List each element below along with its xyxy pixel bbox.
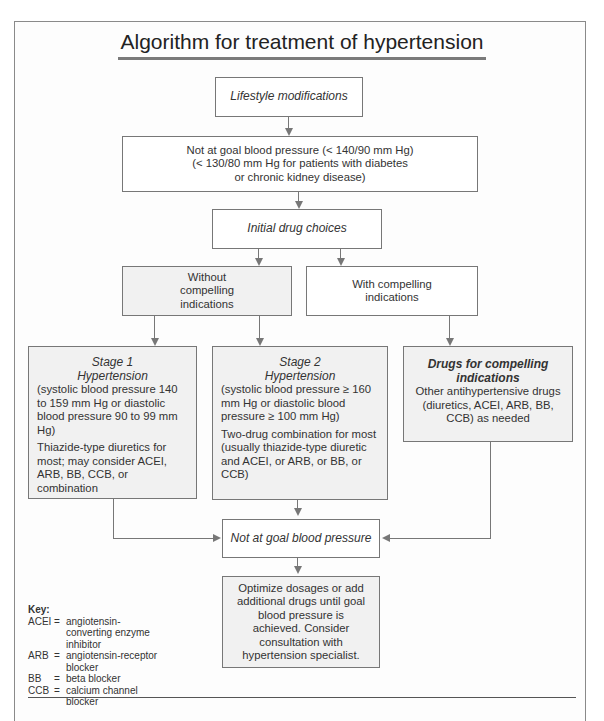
key-row: ACEI = angiotensin-converting enzyme inh…	[28, 616, 162, 651]
node-line: (< 130/80 mm Hg for patients with diabet…	[192, 157, 408, 171]
legend-key: Key: ACEI = angiotensin-converting enzym…	[28, 604, 162, 708]
connector	[113, 499, 114, 539]
connector	[297, 558, 298, 566]
arrow-down-icon	[255, 258, 263, 266]
key-title: Key:	[28, 604, 162, 616]
key-meaning: angiotensin-converting enzyme inhibitor	[66, 616, 162, 651]
node-initial-drug-choices: Initial drug choices	[212, 209, 382, 249]
stage-criteria: (systolic blood pressure ≥ 160 mm Hg or …	[213, 383, 387, 424]
node-lifestyle-modifications: Lifestyle modifications	[215, 77, 363, 117]
key-row: BB = beta blocker	[28, 673, 162, 685]
connector	[259, 316, 260, 338]
stage-heading: Stage 1	[29, 355, 196, 369]
key-abbr: BB	[28, 673, 54, 685]
node-stage-2-hypertension: Stage 2 Hypertension (systolic blood pre…	[212, 346, 388, 500]
arrow-down-icon	[151, 338, 159, 346]
arrow-down-icon	[285, 128, 293, 136]
arrow-left-icon	[382, 534, 390, 542]
arrow-down-icon	[294, 508, 302, 516]
stage-heading: Hypertension	[213, 369, 387, 383]
node-stage-1-hypertension: Stage 1 Hypertension (systolic blood pre…	[28, 346, 197, 499]
key-abbr: CCB	[28, 685, 54, 708]
connector	[113, 538, 213, 539]
node-drugs-for-compelling-indications: Drugs for compelling indications Other a…	[403, 346, 573, 442]
key-row: ARB = angiotensin-receptor blocker	[28, 650, 162, 673]
key-eq: =	[54, 616, 66, 651]
connector	[449, 316, 450, 338]
node-label: With compelling indications	[352, 278, 432, 305]
node-line: or chronic kidney disease)	[234, 171, 365, 185]
node-not-at-goal-bp-threshold: Not at goal blood pressure (< 140/90 mm …	[122, 136, 478, 192]
arrow-down-icon	[337, 258, 345, 266]
node-with-compelling-indications: With compelling indications	[306, 266, 478, 316]
stage-heading: Stage 2	[213, 355, 387, 369]
connector	[390, 538, 491, 539]
node-heading: Drugs for compelling indications	[414, 357, 562, 385]
key-meaning: angiotensin-receptor blocker	[66, 650, 162, 673]
title-text: Algorithm for treatment of hypertension	[118, 30, 485, 60]
arrow-down-icon	[256, 338, 264, 346]
key-table: ACEI = angiotensin-converting enzyme inh…	[28, 616, 162, 708]
node-label: Not at goal blood pressure	[231, 532, 372, 546]
node-label: Without compelling indications	[163, 271, 251, 312]
key-abbr: ACEI	[28, 616, 54, 651]
connector	[490, 442, 491, 539]
arrow-right-icon	[213, 534, 221, 542]
diagram-title: Algorithm for treatment of hypertension	[0, 30, 604, 60]
connector	[297, 500, 298, 508]
stage-heading: Hypertension	[29, 369, 196, 383]
bottom-rule	[28, 697, 576, 698]
node-label: Lifestyle modifications	[230, 90, 347, 104]
key-meaning: calcium channel blocker	[66, 685, 162, 708]
node-line: Not at goal blood pressure (< 140/90 mm …	[187, 144, 414, 158]
arrow-down-icon	[295, 201, 303, 209]
node-not-at-goal-bp: Not at goal blood pressure	[222, 519, 380, 558]
node-optimize-dosages: Optimize dosages or add additional drugs…	[222, 576, 380, 668]
connector	[154, 316, 155, 338]
node-body: Other antihypertensive drugs (diuretics,…	[414, 385, 562, 426]
key-abbr: ARB	[28, 650, 54, 673]
key-meaning: beta blocker	[66, 673, 162, 685]
key-eq: =	[54, 673, 66, 685]
node-without-compelling-indications: Without compelling indications	[122, 266, 292, 316]
stage-treatment: Two-drug combination for most (usually t…	[213, 428, 387, 482]
stage-treatment: Thiazide-type diuretics for most; may co…	[29, 441, 196, 495]
key-eq: =	[54, 650, 66, 673]
node-text: Optimize dosages or add additional drugs…	[233, 582, 369, 663]
arrow-down-icon	[294, 566, 302, 574]
node-label: Initial drug choices	[247, 222, 346, 236]
key-row: CCB = calcium channel blocker	[28, 685, 162, 708]
key-eq: =	[54, 685, 66, 708]
arrow-down-icon	[446, 338, 454, 346]
stage-criteria: (systolic blood pressure 140 to 159 mm H…	[29, 383, 196, 437]
